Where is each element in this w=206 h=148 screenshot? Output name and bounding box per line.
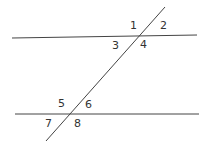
- angle-label-4: 4: [140, 38, 147, 51]
- angle-label-2: 2: [160, 19, 167, 32]
- angle-label-1: 1: [130, 19, 137, 32]
- angle-label-6: 6: [85, 98, 92, 111]
- angle-label-8: 8: [74, 117, 81, 130]
- angle-label-5: 5: [58, 97, 65, 110]
- top-line: [12, 35, 197, 38]
- angle-label-3: 3: [112, 39, 119, 52]
- angle-label-7: 7: [45, 117, 52, 130]
- transversal-line: [46, 7, 165, 141]
- parallel-lines-diagram: 1 2 3 4 5 6 7 8: [0, 0, 206, 148]
